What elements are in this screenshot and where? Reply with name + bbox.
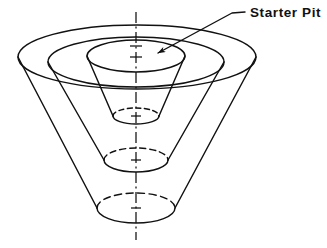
starter-pit-label: Starter Pit: [250, 5, 321, 20]
starter-pit-figure: Starter Pit: [0, 0, 327, 248]
diagram-canvas: Starter Pit: [0, 0, 327, 248]
figure-background: [0, 0, 327, 248]
